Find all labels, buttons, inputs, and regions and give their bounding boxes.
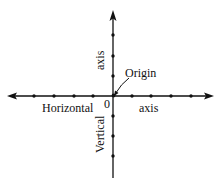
tick-dot bbox=[52, 94, 55, 97]
vertical-axis-label-upper: axis bbox=[93, 50, 107, 70]
tick-dot bbox=[130, 94, 133, 97]
coordinate-axes-diagram: Origin 0 Horizontal axis axis Vertical bbox=[0, 0, 220, 185]
tick-dot bbox=[32, 94, 35, 97]
tick-dot bbox=[111, 54, 114, 57]
tick-dot bbox=[111, 134, 114, 137]
tick-dot bbox=[169, 94, 172, 97]
tick-dot bbox=[72, 94, 75, 97]
origin-pointer-line bbox=[116, 78, 130, 94]
tick-dot bbox=[91, 94, 94, 97]
tick-dot bbox=[189, 94, 192, 97]
origin-label: Origin bbox=[125, 66, 156, 80]
tick-dot bbox=[111, 74, 114, 77]
tick-dot bbox=[111, 154, 114, 157]
horizontal-axis-label-right: axis bbox=[139, 101, 159, 115]
vertical-axis-label-lower: Vertical bbox=[93, 115, 107, 153]
horizontal-axis-label-left: Horizontal bbox=[42, 101, 94, 115]
tick-dot bbox=[111, 33, 114, 36]
zero-label: 0 bbox=[104, 97, 110, 111]
tick-dot bbox=[149, 94, 152, 97]
tick-dot bbox=[111, 114, 114, 117]
